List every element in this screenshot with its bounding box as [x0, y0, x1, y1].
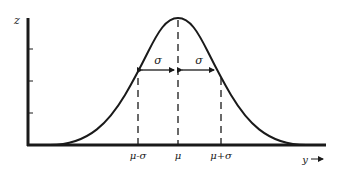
tick-label-mu-plus-sigma: μ+σ [210, 150, 233, 161]
sigma-label-left: σ [154, 54, 162, 67]
y-axis-label: z [13, 14, 20, 27]
sigma-label-right: σ [195, 54, 203, 67]
tick-label-mu: μ [175, 150, 182, 161]
tick-label-mu-minus-sigma: μ-σ [130, 150, 148, 161]
normal-curve-diagram: σ σ z y μ-σ μ μ+σ [0, 0, 348, 171]
x-axis-label: y [301, 154, 308, 165]
